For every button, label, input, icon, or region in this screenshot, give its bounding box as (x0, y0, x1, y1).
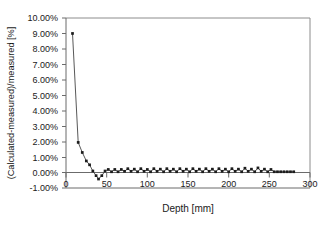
data-point (139, 167, 142, 170)
data-point (292, 170, 295, 173)
data-point (159, 168, 162, 171)
data-point (247, 170, 250, 173)
data-point (71, 32, 74, 35)
data-point (244, 167, 247, 170)
data-point (266, 170, 269, 173)
data-point (81, 151, 84, 154)
data-point (136, 170, 139, 173)
data-point (117, 170, 120, 173)
data-point (179, 167, 182, 170)
data-point (273, 170, 276, 173)
x-tick-label: 100 (140, 179, 155, 189)
data-point (218, 167, 221, 170)
data-point (110, 170, 113, 173)
data-point (85, 160, 88, 163)
data-point (263, 168, 266, 171)
data-point (91, 170, 94, 173)
y-tick-label: 4.00% (32, 106, 58, 116)
x-tick-label: 300 (302, 179, 317, 189)
data-point (182, 170, 185, 173)
data-point (95, 174, 98, 177)
data-point (286, 170, 289, 173)
data-point (77, 141, 80, 144)
data-point (149, 170, 152, 173)
data-point (253, 170, 256, 173)
data-point (146, 168, 149, 171)
x-tick-label: 150 (180, 179, 195, 189)
data-point (100, 174, 103, 177)
plot-area-background (66, 18, 310, 188)
x-tick-label: 200 (221, 179, 236, 189)
x-axis-title: Depth [mm] (162, 203, 214, 214)
data-point (130, 170, 133, 173)
data-point (289, 170, 292, 173)
data-point (211, 168, 214, 171)
data-point (276, 170, 279, 173)
data-point (260, 170, 263, 173)
data-point (143, 170, 146, 173)
data-point (201, 170, 204, 173)
data-point (133, 168, 136, 171)
y-tick-label: 9.00% (32, 29, 58, 39)
data-point (162, 170, 165, 173)
data-point (126, 167, 129, 170)
data-point (156, 170, 159, 173)
y-tick-label: 2.00% (32, 137, 58, 147)
data-point (279, 170, 282, 173)
data-point (198, 168, 201, 171)
data-point (97, 178, 100, 181)
y-tick-label: 5.00% (32, 91, 58, 101)
data-point (185, 168, 188, 171)
data-point (231, 167, 234, 170)
x-tick-label: 50 (102, 179, 112, 189)
data-point (205, 167, 208, 170)
data-point (188, 170, 191, 173)
data-point (227, 170, 230, 173)
data-point (175, 170, 178, 173)
data-point (88, 163, 91, 166)
relative-deviation-line-chart: 10.00% 9.00% 8.00% 7.00% 6.00% 5.00% 4.0… (0, 0, 330, 225)
y-tick-label: 10.00% (27, 13, 58, 23)
data-point (120, 168, 123, 171)
data-point (214, 170, 217, 173)
data-point (224, 168, 227, 171)
data-point (270, 168, 273, 171)
x-tick-label: 0 (63, 179, 68, 189)
data-point (195, 170, 198, 173)
y-tick-label: 7.00% (32, 60, 58, 70)
data-point (169, 170, 172, 173)
data-point (257, 167, 260, 170)
data-point (234, 170, 237, 173)
x-tick-label: 250 (262, 179, 277, 189)
data-point (240, 170, 243, 173)
data-point (104, 170, 107, 173)
data-point (221, 170, 224, 173)
y-axis-title: (Calculated-measured)/measured [%] (6, 27, 16, 180)
chart-figure: 10.00% 9.00% 8.00% 7.00% 6.00% 5.00% 4.0… (0, 0, 330, 225)
data-point (152, 167, 155, 170)
y-tick-label: 1.00% (32, 153, 58, 163)
data-point (166, 167, 169, 170)
data-point (283, 170, 286, 173)
data-point (172, 168, 175, 171)
y-tick-label: -1.00% (29, 183, 58, 193)
data-point (208, 170, 211, 173)
y-tick-label: 3.00% (32, 122, 58, 132)
data-point (113, 168, 116, 171)
y-tick-label: 8.00% (32, 44, 58, 54)
y-tick-label: 6.00% (32, 75, 58, 85)
data-point (107, 168, 110, 171)
data-point (250, 168, 253, 171)
y-tick-label: 0.00% (32, 168, 58, 178)
data-point (237, 168, 240, 171)
data-point (123, 170, 126, 173)
data-point (192, 167, 195, 170)
